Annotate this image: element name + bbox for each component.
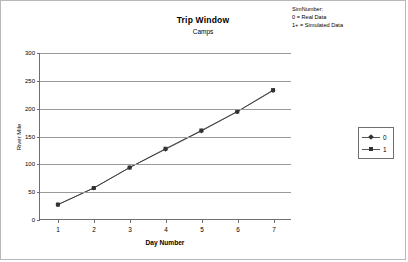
gridline <box>40 164 291 165</box>
sim-note-line-1: SimNumber: <box>292 5 343 13</box>
gridline <box>40 81 291 82</box>
y-tick-mark <box>37 137 40 138</box>
y-tick-mark <box>37 109 40 110</box>
sim-note-line-2: 0 = Real Data <box>292 13 343 21</box>
data-point-1 <box>164 147 168 151</box>
gridline <box>40 53 291 54</box>
data-point-1 <box>128 166 132 170</box>
y-tick-mark <box>37 164 40 165</box>
legend-item-1[interactable]: 1 <box>361 143 391 155</box>
y-tick-mark <box>37 81 40 82</box>
y-axis-title-label: River Mile <box>16 123 22 150</box>
x-tick-label: 4 <box>164 226 168 233</box>
x-tick-mark <box>130 219 131 223</box>
chart-title: Trip Window <box>1 15 405 25</box>
sim-note-line-3: 1+ = Simulated Data <box>292 21 343 29</box>
legend-label-1: 1 <box>381 146 387 153</box>
y-tick-label: 200 <box>25 106 35 112</box>
x-tick-mark <box>238 219 239 223</box>
y-tick-label: 0 <box>32 217 35 223</box>
y-tick-mark <box>37 220 40 221</box>
sim-number-note: SimNumber: 0 = Real Data 1+ = Simulated … <box>292 5 343 29</box>
legend-marker-square-icon <box>361 144 381 154</box>
x-tick-mark <box>202 219 203 223</box>
data-point-1 <box>235 110 239 114</box>
legend-marker-diamond-icon <box>361 132 381 142</box>
x-tick-mark <box>94 219 95 223</box>
x-tick-label: 5 <box>200 226 204 233</box>
y-tick-label: 150 <box>25 134 35 140</box>
x-tick-label: 2 <box>92 226 96 233</box>
y-tick-label: 100 <box>25 161 35 167</box>
x-tick-mark <box>58 219 59 223</box>
x-tick-label: 1 <box>56 226 60 233</box>
data-point-1 <box>56 203 60 207</box>
gridline <box>40 137 291 138</box>
gridline <box>40 109 291 110</box>
x-axis-title: Day Number <box>39 239 291 246</box>
y-tick-mark <box>37 53 40 54</box>
data-point-1 <box>271 88 275 92</box>
x-tick-label: 7 <box>272 226 276 233</box>
y-axis-title: River Mile <box>14 53 24 220</box>
gridline <box>40 192 291 193</box>
x-tick-label: 3 <box>128 226 132 233</box>
x-tick-label: 6 <box>236 226 240 233</box>
x-tick-mark <box>166 219 167 223</box>
y-tick-label: 300 <box>25 50 35 56</box>
y-tick-label: 250 <box>25 78 35 84</box>
chart-container: Trip Window Camps SimNumber: 0 = Real Da… <box>0 0 406 260</box>
y-tick-mark <box>37 192 40 193</box>
data-point-1 <box>199 128 203 132</box>
legend-label-0: 0 <box>381 134 387 141</box>
chart-subtitle: Camps <box>1 28 405 35</box>
y-tick-label: 50 <box>28 189 35 195</box>
plot-area: 0501001502002503001234567 <box>39 53 291 220</box>
data-point-1 <box>92 186 96 190</box>
x-tick-mark <box>274 219 275 223</box>
chart-legend: 0 1 <box>358 127 394 159</box>
legend-item-0[interactable]: 0 <box>361 131 391 143</box>
